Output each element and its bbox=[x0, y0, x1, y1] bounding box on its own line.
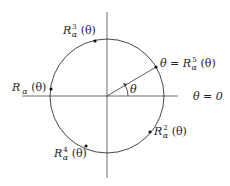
label-r3: R3α (θ) bbox=[62, 23, 96, 39]
angle-arc bbox=[125, 85, 128, 96]
zero-label: θ = 0 bbox=[193, 90, 223, 103]
point-r3 bbox=[93, 39, 96, 42]
label-theta: θ = R5α (θ) bbox=[160, 56, 216, 72]
angle-label: θ bbox=[130, 83, 137, 96]
point-theta bbox=[154, 65, 157, 68]
label-r2: R2α (θ) bbox=[153, 124, 187, 140]
point-r1 bbox=[49, 87, 52, 90]
rotation-diagram: θ θ = 0 θ = R5α (θ) Rα (θ) R2α (θ) R3α (… bbox=[0, 0, 230, 186]
label-r4: R4α (θ) bbox=[53, 146, 87, 162]
label-r1: Rα (θ) bbox=[11, 81, 46, 96]
point-r2 bbox=[148, 130, 151, 133]
